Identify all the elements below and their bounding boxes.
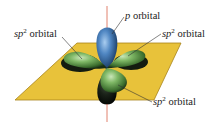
label-sp2-left: sp2 orbital xyxy=(14,29,57,40)
diagram-graphic xyxy=(0,0,222,127)
label-sp2-right: sp2 orbital xyxy=(162,29,205,40)
orbital-diagram: p orbital sp2 orbital sp2 orbital sp2 or… xyxy=(0,0,222,127)
leader-p xyxy=(112,17,124,34)
label-p-orbital: p orbital xyxy=(125,11,160,22)
label-sp2-bottom: sp2 orbital xyxy=(153,97,196,108)
